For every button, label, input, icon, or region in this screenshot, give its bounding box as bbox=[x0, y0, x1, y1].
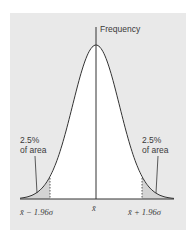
left-tail-area bbox=[20, 176, 50, 199]
y-axis-label: Frequency bbox=[100, 24, 140, 34]
left-leader-line bbox=[35, 156, 37, 193]
right-tail-area bbox=[142, 176, 174, 199]
tick-label-center: x̄ bbox=[92, 203, 96, 213]
tick-label-right: x̄ + 1.96σ bbox=[128, 207, 161, 217]
right-tail-percent: 2.5% bbox=[142, 135, 161, 145]
left-tail-area-label: of area bbox=[20, 145, 46, 155]
normal-curve-plot bbox=[0, 0, 192, 237]
left-tail-percent: 2.5% bbox=[20, 135, 39, 145]
tick-label-left: x̄ − 1.96σ bbox=[20, 207, 53, 217]
right-tail-area-label: of area bbox=[142, 145, 168, 155]
right-leader-line bbox=[156, 156, 158, 193]
